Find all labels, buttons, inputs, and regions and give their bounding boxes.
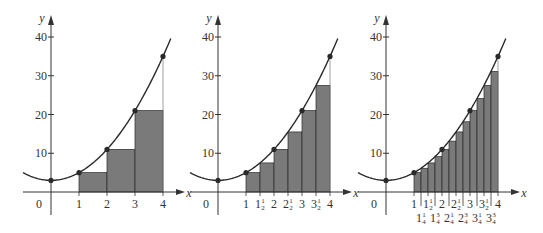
curve-point xyxy=(299,108,304,113)
rectangle xyxy=(442,149,449,192)
curve-point xyxy=(383,178,388,183)
x-tick-label: 3 xyxy=(467,197,473,211)
curve-point xyxy=(104,147,109,152)
curve-point xyxy=(132,108,137,113)
x-tick-fraction-denominator: 2 xyxy=(261,204,265,212)
x-tick-label: 2 xyxy=(451,197,457,211)
curve-point xyxy=(327,54,332,59)
curve-point xyxy=(76,170,81,175)
rectangle xyxy=(435,157,442,192)
x-tick-fraction-denominator: 4 xyxy=(478,218,482,226)
panel-2: yx0102030401112221233124 xyxy=(190,11,359,215)
y-axis-arrow-icon xyxy=(48,15,54,25)
y-tick-label: 10 xyxy=(370,146,382,160)
y-tick-label: 30 xyxy=(202,69,214,83)
x-tick-label: 1 xyxy=(423,197,429,211)
curve-point xyxy=(271,147,276,152)
x-tick-label: 1 xyxy=(430,211,436,225)
y-axis-label: y xyxy=(205,11,212,25)
x-tick-label: 4 xyxy=(160,197,166,211)
rectangle xyxy=(79,173,107,192)
x-tick-label: 2 xyxy=(458,211,464,225)
rectangle xyxy=(491,71,498,192)
x-tick-label: 1 xyxy=(416,211,422,225)
curve-point xyxy=(411,170,416,175)
rectangle xyxy=(288,132,302,192)
origin-label: 0 xyxy=(371,197,377,211)
x-tick-label: 3 xyxy=(299,197,305,211)
x-tick-label: 4 xyxy=(327,197,333,211)
x-tick-fraction-denominator: 4 xyxy=(436,218,440,226)
rectangles xyxy=(79,111,163,192)
x-axis-arrow-icon xyxy=(176,189,185,195)
rectangle xyxy=(246,173,260,192)
curve-point xyxy=(215,178,220,183)
x-tick-label: 3 xyxy=(479,197,485,211)
x-tick-label: 1 xyxy=(243,197,249,211)
rectangle xyxy=(428,163,435,192)
rectangle xyxy=(107,149,135,192)
riemann-sum-figure: yx0102030401234yx0102030401112221233124y… xyxy=(0,0,543,233)
rectangle xyxy=(302,111,316,192)
x-tick-label: 2 xyxy=(283,197,289,211)
x-axis-label: x xyxy=(352,186,359,200)
x-axis-arrow-icon xyxy=(511,189,520,195)
x-tick-label: 2 xyxy=(104,197,110,211)
curve-point xyxy=(495,54,500,59)
x-tick-label: 2 xyxy=(439,197,445,211)
x-tick-fraction-denominator: 4 xyxy=(464,218,468,226)
rectangle xyxy=(484,85,491,192)
x-axis-label: x xyxy=(520,186,527,200)
y-axis-label: y xyxy=(373,11,380,25)
x-tick-label: 2 xyxy=(444,211,450,225)
y-axis-arrow-icon xyxy=(215,15,221,25)
rectangle xyxy=(421,168,428,192)
rectangle xyxy=(477,99,484,192)
x-tick-label: 1 xyxy=(76,197,82,211)
y-tick-label: 10 xyxy=(202,146,214,160)
y-tick-label: 30 xyxy=(35,69,47,83)
y-tick-label: 40 xyxy=(370,30,382,44)
y-tick-label: 40 xyxy=(35,30,47,44)
x-tick-fraction-denominator: 4 xyxy=(450,218,454,226)
curve-point xyxy=(48,178,53,183)
rectangle xyxy=(470,111,477,192)
x-tick-fraction-denominator: 2 xyxy=(317,204,321,212)
rectangle xyxy=(260,163,274,192)
rectangle xyxy=(135,111,163,192)
x-tick-fraction-denominator: 4 xyxy=(492,218,496,226)
x-tick-label: 3 xyxy=(472,211,478,225)
y-tick-label: 40 xyxy=(202,30,214,44)
x-axis-label: x xyxy=(185,186,192,200)
rectangle xyxy=(274,149,288,192)
rectangle xyxy=(449,141,456,192)
origin-label: 0 xyxy=(203,197,209,211)
riemann-sum-charts: yx0102030401234yx0102030401112221233124y… xyxy=(0,0,543,233)
panel-3: yx01020304011122212331241141342142343143… xyxy=(358,11,527,226)
y-axis-label: y xyxy=(38,11,45,25)
rectangle xyxy=(414,173,421,192)
rectangle xyxy=(463,122,470,192)
x-tick-label: 3 xyxy=(486,211,492,225)
y-tick-label: 20 xyxy=(202,108,214,122)
rectangle xyxy=(316,85,330,192)
y-tick-label: 10 xyxy=(35,146,47,160)
x-tick-label: 3 xyxy=(311,197,317,211)
x-tick-label: 1 xyxy=(411,197,417,211)
curve-point xyxy=(243,170,248,175)
x-tick-label: 2 xyxy=(271,197,277,211)
curve-point xyxy=(467,108,472,113)
y-tick-label: 20 xyxy=(370,108,382,122)
x-tick-label: 1 xyxy=(255,197,261,211)
rectangles xyxy=(246,85,330,192)
x-tick-fraction-denominator: 2 xyxy=(289,204,293,212)
x-tick-label: 4 xyxy=(495,197,501,211)
rectangle xyxy=(456,132,463,192)
curve-point xyxy=(160,54,165,59)
y-axis-arrow-icon xyxy=(383,15,389,25)
x-tick-label: 3 xyxy=(132,197,138,211)
x-tick-fraction-denominator: 4 xyxy=(422,218,426,226)
origin-label: 0 xyxy=(36,197,42,211)
panel-1: yx0102030401234 xyxy=(23,11,192,215)
y-tick-label: 20 xyxy=(35,108,47,122)
